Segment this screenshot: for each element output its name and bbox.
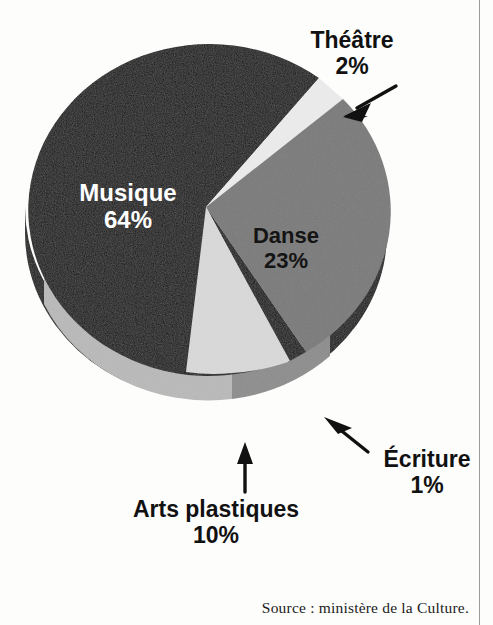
slice-label-ecriture: Écriture 1% — [384, 447, 471, 499]
arrow-ecriture — [324, 417, 368, 452]
source-attribution: Source : ministère de la Culture. — [262, 599, 469, 617]
slice-label-danse-pct: 23% — [253, 249, 319, 274]
slice-label-musique: Musique 64% — [79, 180, 176, 234]
slice-label-arts-plastiques-name: Arts plastiques — [133, 497, 299, 523]
arrow-arts-plastiques — [237, 442, 253, 492]
slice-label-danse: Danse 23% — [253, 224, 319, 273]
slice-label-musique-name: Musique — [79, 180, 176, 207]
slice-label-arts-plastiques-pct: 10% — [133, 523, 299, 549]
slice-label-arts-plastiques: Arts plastiques 10% — [133, 497, 299, 549]
slice-label-theatre-pct: 2% — [310, 54, 393, 80]
slice-label-danse-name: Danse — [253, 224, 319, 249]
slice-label-ecriture-pct: 1% — [384, 473, 471, 499]
arrow-theatre — [343, 86, 396, 122]
slice-label-theatre-name: Théâtre — [310, 28, 393, 54]
slice-label-ecriture-name: Écriture — [384, 447, 471, 473]
slice-label-musique-pct: 64% — [79, 207, 176, 234]
slice-label-theatre: Théâtre 2% — [310, 28, 393, 80]
pie-chart-figure: Théâtre 2% Musique 64% Danse 23% Écritur… — [0, 0, 493, 625]
